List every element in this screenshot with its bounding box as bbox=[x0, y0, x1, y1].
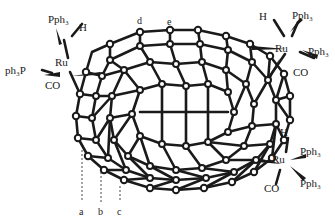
ligand-h-top-right: H bbox=[259, 11, 267, 22]
fullerene-cage bbox=[0, 0, 335, 222]
ligand-pph3-bottom-right-upper: Pph₃ bbox=[300, 146, 321, 157]
ruthenium-atom-bottom-right: Ru bbox=[272, 154, 285, 165]
ligand-h-top-left: H bbox=[79, 22, 87, 33]
ligand-pph3-top-right: Pph₃ bbox=[292, 10, 313, 21]
ligand-h-bottom-right: H bbox=[280, 127, 288, 138]
ligand-ph3p-left: ph₃P bbox=[5, 65, 26, 76]
ligand-pph3-top-left: Pph₃ bbox=[48, 14, 69, 25]
bond-label-a: a bbox=[79, 207, 83, 217]
ruthenium-atom-top-left: Ru bbox=[55, 57, 68, 68]
ligand-pph3-right: Pph₃ bbox=[308, 46, 329, 57]
ligand-co-top-right: CO bbox=[293, 67, 308, 78]
bond-label-e: e bbox=[167, 17, 171, 27]
ligand-pph3-bottom-right-lower: Pph₃ bbox=[300, 178, 321, 189]
bond-label-b: b bbox=[98, 207, 103, 217]
ligand-co-bottom-right: CO bbox=[264, 183, 279, 194]
fullerene-ruthenium-diagram: Pph₃ H ph₃P Ru CO H Pph₃ Ru Pph₃ CO H Ru… bbox=[0, 0, 335, 222]
ruthenium-atom-top-right: Ru bbox=[275, 43, 288, 54]
bond-label-d: d bbox=[137, 16, 142, 26]
ligand-co-top-left: CO bbox=[45, 80, 60, 91]
bond-label-c: c bbox=[117, 207, 121, 217]
